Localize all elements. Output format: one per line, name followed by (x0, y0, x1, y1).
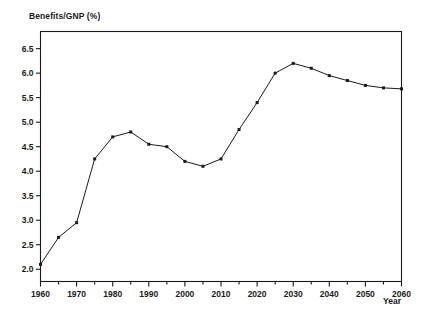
x-tick-label: 2010 (212, 289, 231, 299)
y-axis-ticks: 2.02.53.03.54.04.55.05.56.06.5 (22, 44, 41, 275)
y-tick-label: 4.0 (22, 166, 34, 176)
data-point-marker (310, 67, 313, 70)
x-tick-label: 1980 (103, 289, 122, 299)
data-point-marker (346, 79, 349, 82)
x-tick-label: 1970 (67, 289, 86, 299)
data-point-marker (165, 145, 168, 148)
x-tick-label: 2050 (356, 289, 375, 299)
x-tick-label: 2040 (320, 289, 339, 299)
y-tick-label: 2.5 (22, 240, 34, 250)
data-point-marker (364, 84, 367, 87)
x-tick-label: 1960 (31, 289, 50, 299)
data-point-marker (256, 101, 259, 104)
data-point-marker (201, 165, 204, 168)
data-point-marker (274, 72, 277, 75)
y-tick-label: 5.0 (22, 117, 34, 127)
plot-frame (41, 32, 402, 282)
x-tick-label: 2020 (248, 289, 267, 299)
data-point-marker (238, 128, 241, 131)
x-axis-title: Year (383, 296, 401, 306)
data-point-marker (292, 62, 295, 65)
y-tick-label: 3.0 (22, 215, 34, 225)
data-point-marker (111, 135, 114, 138)
data-point-marker (39, 263, 42, 266)
y-tick-label: 3.5 (22, 191, 34, 201)
y-tick-label: 5.5 (22, 93, 34, 103)
data-point-marker (75, 221, 78, 224)
data-point-marker (382, 86, 385, 89)
y-tick-label: 6.5 (22, 44, 34, 54)
data-point-marker (93, 157, 96, 160)
data-point-marker (328, 74, 331, 77)
data-point-marker (147, 143, 150, 146)
data-point-marker (220, 157, 223, 160)
x-axis-ticks: 1960197019801990200020102020203020402050… (31, 282, 411, 299)
y-tick-label: 4.5 (22, 142, 34, 152)
y-tick-label: 2.0 (22, 264, 34, 274)
data-point-marker (57, 236, 60, 239)
x-tick-label: 2000 (175, 289, 194, 299)
chart-figure: Benefits/GNP (%) 2.02.53.03.54.04.55.05.… (0, 0, 440, 325)
line-chart-plot: 2.02.53.03.54.04.55.05.56.06.51960197019… (0, 0, 440, 325)
data-point-marker (183, 160, 186, 163)
x-tick-label: 1990 (139, 289, 158, 299)
data-point-marker (129, 130, 132, 133)
data-point-marker (400, 87, 403, 90)
y-tick-label: 6.0 (22, 68, 34, 78)
x-tick-label: 2030 (284, 289, 303, 299)
